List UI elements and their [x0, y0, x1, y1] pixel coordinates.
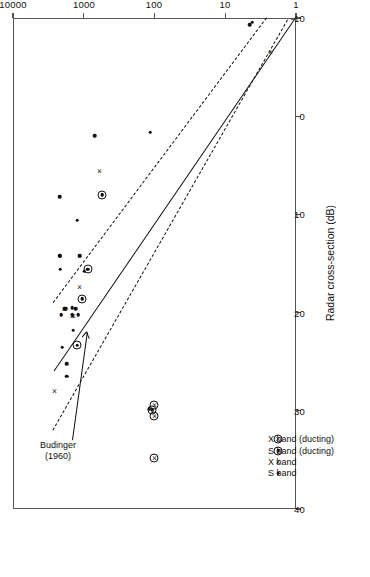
data-point: ×	[71, 311, 76, 320]
data-point	[65, 375, 68, 378]
data-point: ×	[77, 283, 82, 292]
data-point-ring	[78, 294, 87, 303]
data-point	[58, 195, 61, 198]
legend-label-1: X band	[268, 457, 297, 467]
annotation-line-1: (1960)	[40, 450, 76, 461]
data-point: ×	[52, 387, 57, 396]
data-point: ×	[62, 304, 67, 313]
y-tick-label: 40	[294, 504, 305, 515]
data-point: ×	[268, 48, 273, 57]
x-tick-label: 10000	[0, 0, 27, 10]
data-point	[72, 329, 75, 332]
plot-frame	[13, 18, 296, 509]
data-point	[59, 268, 62, 271]
data-point	[58, 254, 61, 257]
data-point	[75, 219, 78, 222]
y-axis-title: Radar cross-section (dB)	[324, 205, 336, 321]
x-tick-label: 100	[146, 0, 162, 10]
data-point-ring	[83, 265, 92, 274]
y-tick-label: 0	[300, 111, 305, 122]
y-tick-label: 10	[294, 209, 305, 220]
legend-label-3: X band (ducting)	[268, 434, 334, 444]
x-tick	[83, 13, 84, 18]
data-point	[78, 254, 81, 257]
y-tick-label: 30	[294, 405, 305, 416]
rotated-figure-group: 110100100010000 -10010203040 Cross-secti…	[0, 0, 370, 577]
data-point	[65, 362, 68, 365]
x-tick	[12, 13, 13, 18]
data-point	[76, 313, 79, 316]
x-tick-label: 1000	[73, 0, 95, 10]
data-point-ring	[150, 411, 159, 420]
data-point-ring	[98, 190, 107, 199]
figure-canvas: 110100100010000 -10010203040 Cross-secti…	[0, 0, 370, 577]
x-tick	[225, 13, 226, 18]
data-point	[250, 20, 253, 23]
legend-label-0: S band	[268, 468, 297, 478]
annotation-line-0: Budinger	[40, 440, 76, 451]
legend-label-2: S band (ducting)	[268, 446, 334, 456]
y-tick-label: 20	[294, 307, 305, 318]
x-tick-label: 10	[220, 0, 231, 10]
x-tick	[154, 13, 155, 18]
data-point: ×	[97, 167, 102, 176]
data-point	[71, 306, 74, 309]
data-point	[61, 345, 64, 348]
data-point-ring	[150, 453, 159, 462]
data-point-ring	[150, 400, 159, 409]
data-point	[149, 130, 152, 133]
x-tick-label: 1	[293, 0, 298, 10]
budinger-annotation-label: Budinger(1960)	[40, 440, 76, 461]
data-point-ring	[72, 341, 81, 350]
data-point	[93, 134, 96, 137]
data-point	[248, 23, 251, 26]
